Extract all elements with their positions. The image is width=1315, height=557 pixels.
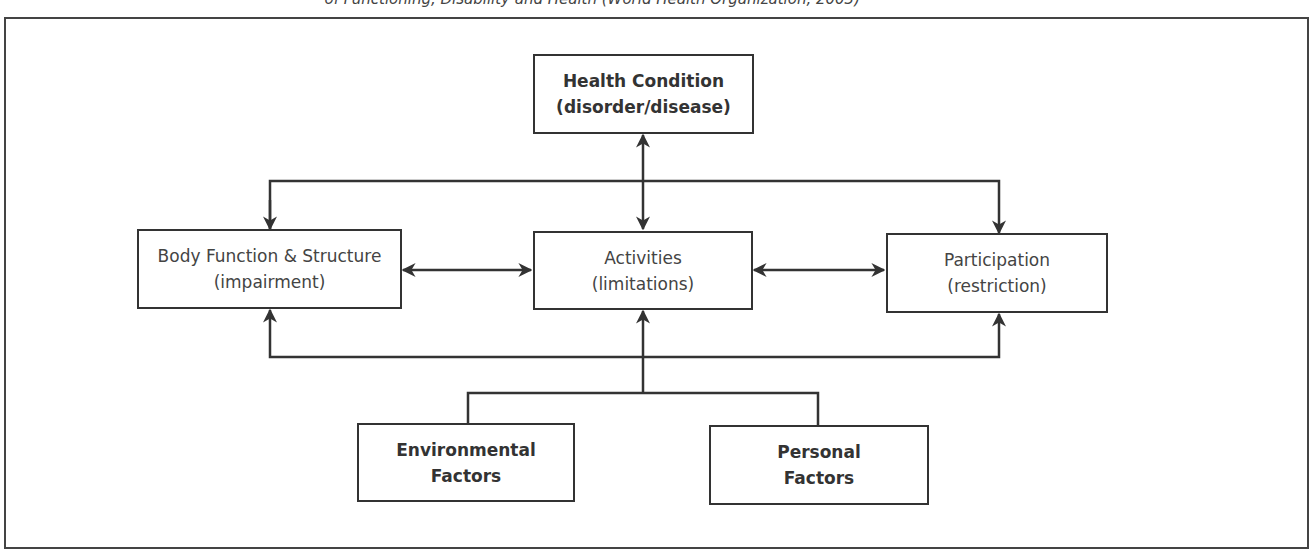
node-participation-subtitle: (restriction) — [947, 273, 1047, 299]
node-activities-title: Activities — [604, 245, 682, 271]
node-personal-title: Personal — [777, 439, 861, 465]
factors-connector — [468, 393, 818, 425]
node-activities-subtitle: (limitations) — [592, 271, 695, 297]
node-activities: Activities (limitations) — [533, 231, 753, 310]
node-health-title: Health Condition — [563, 68, 724, 94]
top-bus-line — [270, 181, 999, 233]
node-environmental-subtitle: Factors — [431, 463, 501, 489]
node-participation-title: Participation — [944, 247, 1050, 273]
node-health-subtitle: (disorder/disease) — [556, 94, 731, 120]
node-participation: Participation (restriction) — [886, 233, 1108, 313]
node-personal-factors: Personal Factors — [709, 425, 929, 505]
node-body-function: Body Function & Structure (impairment) — [137, 229, 402, 309]
node-personal-subtitle: Factors — [784, 465, 854, 491]
node-environmental-factors: Environmental Factors — [357, 423, 575, 502]
bottom-bus-line — [270, 310, 999, 357]
node-environmental-title: Environmental — [396, 437, 536, 463]
node-health-condition: Health Condition (disorder/disease) — [533, 54, 754, 134]
node-body-title: Body Function & Structure — [158, 243, 382, 269]
node-body-subtitle: (impairment) — [214, 269, 326, 295]
